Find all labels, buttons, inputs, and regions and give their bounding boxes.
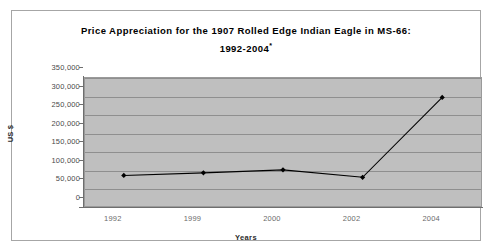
series-line-chart [84, 77, 482, 207]
y-axis-tick-label: 250,000 [26, 100, 80, 109]
chart-title: Price Appreciation for the 1907 Rolled E… [12, 23, 480, 56]
y-axis-tick-label: 150,000 [26, 137, 80, 146]
data-point-marker [201, 170, 206, 175]
y-axis-title: US $ [6, 125, 15, 142]
x-axis-tick-label: 2000 [263, 214, 281, 223]
chart-frame: Price Appreciation for the 1907 Rolled E… [11, 10, 481, 241]
chart-title-line-1: Price Appreciation for the 1907 Rolled E… [81, 25, 411, 36]
y-axis-tick-label: 200,000 [26, 118, 80, 127]
x-axis-tick-label: 1999 [184, 214, 202, 223]
series-polyline [124, 97, 442, 177]
data-point-marker [121, 173, 126, 178]
x-axis-tick-label: 1992 [104, 214, 122, 223]
y-axis-tick-label: 0 [26, 193, 80, 202]
y-axis-tick-label: 50,000 [26, 174, 80, 183]
chart-title-range: 1992-2004 [220, 43, 269, 54]
y-axis-tick-label: 300,000 [26, 81, 80, 90]
plot-wrapper [84, 77, 482, 207]
data-point-marker [280, 167, 285, 172]
chart-title-footnote-marker: * [269, 42, 272, 49]
x-axis-line [79, 207, 483, 208]
x-axis-tick-label: 2002 [343, 214, 361, 223]
x-axis-tick-label: 2004 [422, 214, 440, 223]
y-axis-tick-mark [79, 67, 83, 68]
series-markers [121, 95, 445, 180]
x-axis-title: Years [12, 233, 480, 242]
y-axis-tick-label: 350,000 [26, 63, 80, 72]
y-axis-tick-label: 100,000 [26, 155, 80, 164]
chart-title-line-2: 1992-2004* [12, 38, 480, 56]
y-axis-tick-labels: 050,000100,000150,000200,000250,000300,0… [24, 11, 80, 251]
